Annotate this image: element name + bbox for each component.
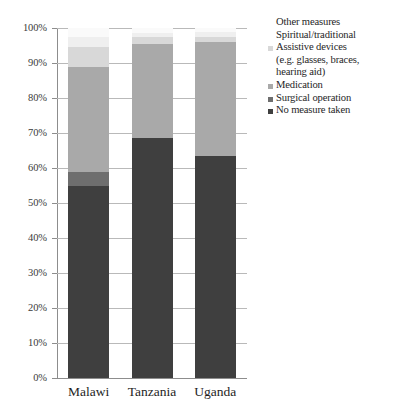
bar-segment [132, 28, 173, 33]
bar-uganda [195, 28, 236, 378]
y-tick-label: 90% [0, 58, 47, 68]
legend-swatch-icon [268, 21, 273, 26]
legend-item[interactable]: Surgical operation [268, 92, 394, 105]
legend-item[interactable]: Medication [268, 79, 394, 92]
y-tick-label: 80% [0, 93, 47, 103]
legend-item[interactable]: Spiritual/traditional [268, 29, 394, 42]
bars-layer [57, 28, 247, 378]
y-tick-label: 10% [0, 338, 47, 348]
legend-swatch-icon [268, 34, 273, 39]
x-tick-label: Uganda [175, 384, 255, 400]
y-tick-label: 40% [0, 233, 47, 243]
bar-segment [68, 37, 109, 48]
y-tick-label: 100% [0, 23, 47, 33]
legend-label: No measure taken [276, 104, 350, 117]
bar-segment [195, 32, 236, 37]
legend-item[interactable]: Assistive devices(e.g. glasses, braces,h… [268, 41, 394, 79]
y-tick-label: 50% [0, 198, 47, 208]
legend-swatch-icon [268, 46, 273, 51]
y-tick-label: 30% [0, 268, 47, 278]
legend-swatch-icon [268, 97, 273, 102]
gridline [57, 378, 247, 379]
legend-swatch-icon [268, 109, 273, 114]
bar-malawi [68, 28, 109, 378]
y-tick-label: 0% [0, 373, 47, 383]
stacked-bar-chart: 100%90%80%70%60%50%40%30%20%10%0% Malawi… [0, 0, 394, 413]
bar-segment [132, 37, 173, 44]
bar-segment [132, 33, 173, 37]
legend-label: Other measures [276, 16, 340, 29]
bar-segment [68, 186, 109, 379]
bar-segment [68, 172, 109, 186]
y-axis-tick [52, 378, 57, 379]
legend-item[interactable]: Other measures [268, 16, 394, 29]
bar-segment [132, 44, 173, 139]
legend-label: Medication [276, 79, 323, 92]
legend-label: Surgical operation [276, 92, 351, 105]
bar-segment [68, 47, 109, 66]
bar-segment [195, 37, 236, 42]
legend-item[interactable]: No measure taken [268, 104, 394, 117]
y-tick-label: 60% [0, 163, 47, 173]
bar-tanzania [132, 28, 173, 378]
legend-swatch-icon [268, 84, 273, 89]
bar-segment [195, 42, 236, 156]
bar-segment [195, 28, 236, 32]
y-tick-label: 70% [0, 128, 47, 138]
bar-segment [132, 138, 173, 378]
legend-label: Assistive devices(e.g. glasses, braces,h… [276, 41, 359, 79]
legend-label-sub: hearing aid) [276, 66, 359, 79]
bar-segment [68, 67, 109, 172]
legend-label: Spiritual/traditional [276, 29, 356, 42]
chart-legend: Other measuresSpiritual/traditionalAssis… [268, 16, 394, 117]
legend-label-sub: (e.g. glasses, braces, [276, 54, 359, 67]
bar-segment [195, 156, 236, 378]
bar-segment [68, 28, 109, 37]
y-tick-label: 20% [0, 303, 47, 313]
